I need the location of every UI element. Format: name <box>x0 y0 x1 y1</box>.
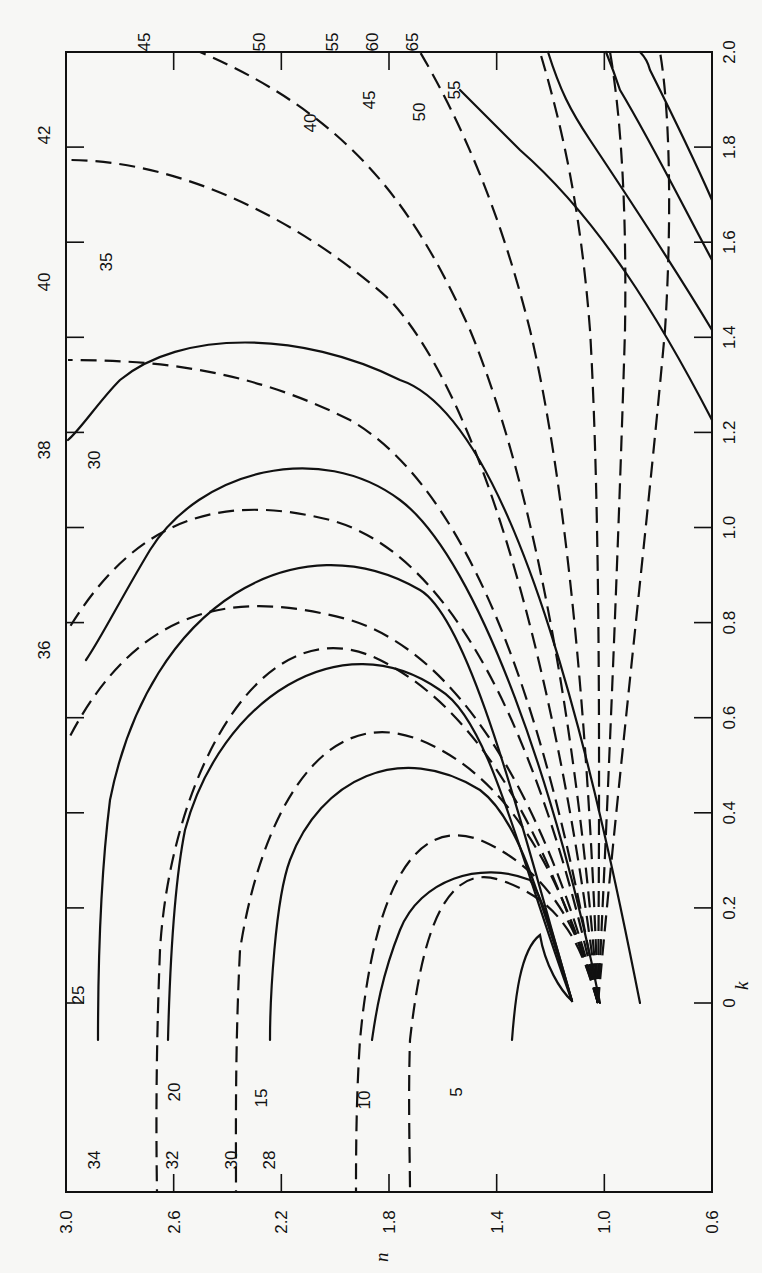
dashed-curve-34 <box>156 648 598 1192</box>
bottom-edge-label: 32 <box>163 1151 182 1170</box>
bottom-edge-label: 30 <box>222 1151 241 1170</box>
curve-layer <box>68 52 712 1192</box>
left-edge-label: 40 <box>35 273 54 292</box>
dashed-curve-50 <box>420 52 598 1003</box>
top-edge-label: 50 <box>250 33 269 52</box>
dashed-curve-60 <box>598 52 625 1003</box>
solid-curve-25 <box>98 565 572 1040</box>
top-edge-label: 55 <box>323 33 342 52</box>
chart: 00.20.40.60.81.01.21.41.61.82.03.02.62.2… <box>0 0 762 1273</box>
k-tick-label: 1.6 <box>720 230 739 254</box>
plot-frame <box>66 52 712 1192</box>
label-layer: 00.20.40.60.81.01.21.41.61.82.03.02.62.2… <box>35 33 739 1234</box>
interior-curve-label: 10 <box>355 1091 374 1110</box>
dashed-curve-36 <box>68 606 598 1003</box>
n-tick-label: 0.6 <box>703 1210 722 1234</box>
n-tick-label: 2.2 <box>272 1210 291 1234</box>
interior-curve-label: 50 <box>410 103 429 122</box>
n-tick-label: 3.0 <box>57 1210 76 1234</box>
top-edge-label: 45 <box>135 33 154 52</box>
n-tick-label: 2.6 <box>165 1210 184 1234</box>
n-tick-label: 1.0 <box>595 1210 614 1234</box>
k-tick-label: 0.6 <box>720 706 739 730</box>
n-tick-label: 1.8 <box>380 1210 399 1234</box>
n-axis-label: n <box>371 1253 392 1263</box>
interior-curve-label: 45 <box>360 91 379 110</box>
dashed-curve-40 <box>68 360 598 1003</box>
k-tick-label: 1.8 <box>720 135 739 159</box>
k-tick-label: 0.4 <box>720 801 739 825</box>
bottom-edge-label: 28 <box>260 1151 279 1170</box>
solid-curve-55 <box>640 52 712 200</box>
dashed-curve-45 <box>200 52 598 1003</box>
interior-curve-label: 25 <box>69 986 88 1005</box>
dashed-curve-38 <box>68 510 598 1003</box>
tick-layer <box>66 52 712 1192</box>
solid-curve-35 <box>68 343 640 1004</box>
top-edge-label: 60 <box>363 33 382 52</box>
solid-curve-45 <box>548 52 712 330</box>
interior-curve-label: 40 <box>301 114 320 133</box>
top-edge-label: 65 <box>403 33 422 52</box>
k-tick-label: 1.2 <box>720 421 739 445</box>
k-axis-label: k <box>731 981 752 990</box>
k-tick-label: 1.0 <box>720 516 739 540</box>
interior-curve-label: 20 <box>165 1083 184 1102</box>
interior-curve-label: 15 <box>252 1089 271 1108</box>
n-tick-label: 1.4 <box>488 1210 507 1234</box>
left-edge-label: 36 <box>35 641 54 660</box>
left-edge-label: 42 <box>35 126 54 145</box>
interior-curve-label: 30 <box>85 451 104 470</box>
solid-curve-5 <box>512 935 572 1040</box>
k-tick-label: 1.4 <box>720 325 739 349</box>
solid-curve-15 <box>270 768 572 1040</box>
interior-curve-label: 35 <box>97 253 116 272</box>
k-tick-label: 0.2 <box>720 896 739 920</box>
solid-curve-30 <box>86 468 600 1003</box>
k-tick-label: 2.0 <box>720 40 739 64</box>
dashed-curve-30 <box>356 835 598 1192</box>
solid-curve-40 <box>460 90 712 420</box>
interior-curve-label: 5 <box>447 1087 466 1096</box>
dashed-curve-32 <box>236 732 598 1192</box>
k-tick-label: 0 <box>720 998 739 1007</box>
interior-curve-label: 55 <box>445 81 464 100</box>
left-edge-label: 38 <box>35 441 54 460</box>
k-tick-label: 0.8 <box>720 611 739 635</box>
bottom-edge-label: 34 <box>85 1151 104 1170</box>
dashed-curve-65 <box>598 52 669 1003</box>
